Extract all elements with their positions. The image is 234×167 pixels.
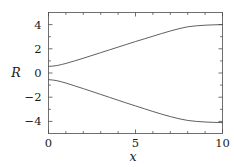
y-tick-label: 4	[34, 18, 41, 32]
y-axis-title: R	[10, 65, 20, 80]
line-chart: 0510 −4−2024 x R	[0, 0, 234, 167]
x-tick-label: 5	[132, 136, 139, 150]
y-tick-label: 0	[34, 66, 41, 80]
x-axis-title: x	[129, 149, 136, 164]
y-tick-label: 2	[34, 42, 41, 56]
y-tick-label: −2	[25, 90, 42, 104]
y-tick-label: −4	[25, 114, 42, 128]
chart-figure: 0510 −4−2024 x R	[0, 0, 234, 167]
x-tick-label: 0	[45, 136, 52, 150]
x-tick-label: 10	[215, 136, 230, 150]
